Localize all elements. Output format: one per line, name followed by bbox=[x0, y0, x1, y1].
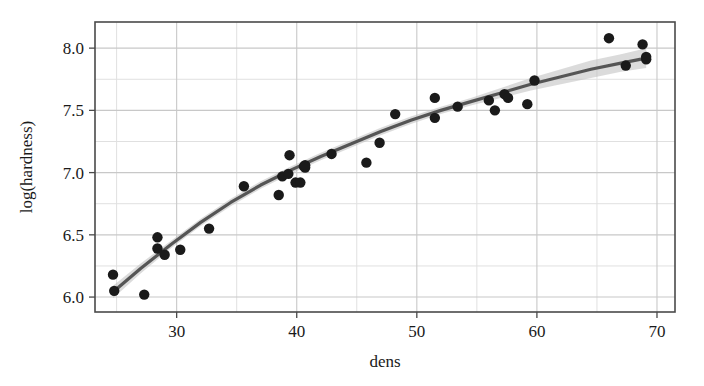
data-point bbox=[175, 245, 185, 255]
data-point bbox=[430, 93, 440, 103]
x-tick-label: 40 bbox=[288, 322, 305, 341]
y-tick-label: 7.5 bbox=[63, 101, 84, 120]
data-point bbox=[621, 60, 631, 70]
data-point bbox=[109, 286, 119, 296]
y-tick-label: 6.5 bbox=[63, 226, 84, 245]
data-point bbox=[108, 269, 118, 279]
chart-figure: 3040506070 6.06.57.07.58.0 dens log(hard… bbox=[0, 0, 704, 386]
data-point bbox=[390, 109, 400, 119]
data-point bbox=[239, 181, 249, 191]
x-axis-ticks: 3040506070 bbox=[168, 312, 665, 341]
data-point bbox=[139, 289, 149, 299]
scatter-plot: 3040506070 6.06.57.07.58.0 dens log(hard… bbox=[0, 0, 704, 386]
data-point bbox=[374, 138, 384, 148]
plot-panel bbox=[95, 22, 675, 312]
data-point bbox=[152, 232, 162, 242]
x-tick-label: 60 bbox=[528, 322, 545, 341]
data-point bbox=[300, 160, 310, 170]
data-point bbox=[503, 93, 513, 103]
data-point bbox=[604, 33, 614, 43]
data-point bbox=[283, 169, 293, 179]
x-tick-label: 30 bbox=[168, 322, 185, 341]
data-point bbox=[529, 75, 539, 85]
y-tick-label: 8.0 bbox=[63, 39, 84, 58]
data-point bbox=[274, 190, 284, 200]
data-point bbox=[490, 105, 500, 115]
data-point bbox=[484, 95, 494, 105]
data-point bbox=[204, 223, 214, 233]
data-point bbox=[295, 177, 305, 187]
data-point bbox=[326, 149, 336, 159]
y-tick-label: 7.0 bbox=[63, 164, 84, 183]
data-point bbox=[430, 113, 440, 123]
y-axis-ticks: 6.06.57.07.58.0 bbox=[63, 39, 95, 307]
y-axis-title: log(hardness) bbox=[17, 121, 36, 214]
data-point bbox=[522, 99, 532, 109]
x-tick-label: 70 bbox=[648, 322, 665, 341]
x-axis-title: dens bbox=[369, 352, 400, 371]
data-point bbox=[361, 157, 371, 167]
data-point bbox=[159, 250, 169, 260]
data-point bbox=[641, 54, 651, 64]
data-point bbox=[452, 101, 462, 111]
data-point bbox=[284, 150, 294, 160]
data-point bbox=[637, 39, 647, 49]
y-tick-label: 6.0 bbox=[63, 288, 84, 307]
x-tick-label: 50 bbox=[408, 322, 425, 341]
